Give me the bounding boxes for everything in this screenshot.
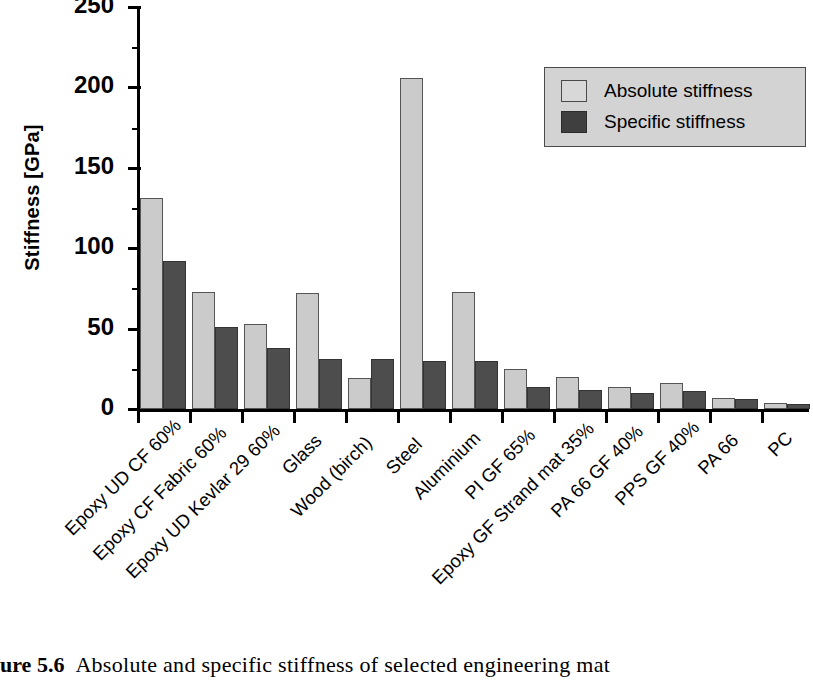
legend-swatch-absolute-icon [561, 80, 587, 102]
bar-specific-5 [423, 361, 446, 409]
bar-specific-1 [215, 327, 238, 409]
bar-specific-8 [579, 390, 602, 409]
bar-specific-9 [631, 393, 654, 409]
bar-absolute-6 [452, 292, 475, 409]
legend-label-specific: Specific stiffness [604, 111, 745, 133]
y-tick-label-50: 50 [87, 313, 114, 341]
bar-absolute-8 [556, 377, 579, 409]
bar-specific-12 [787, 404, 810, 409]
y-tick-minor-75 [132, 288, 139, 290]
y-tick-minor-225 [132, 47, 139, 49]
x-axis-label-5: Steel [381, 434, 426, 479]
bar-specific-11 [735, 399, 758, 409]
bar-specific-6 [475, 361, 498, 409]
bar-specific-10 [683, 391, 706, 409]
bar-specific-2 [267, 348, 290, 409]
x-tick-8 [553, 409, 556, 423]
y-axis-title: Stiffness [GPa] [21, 103, 44, 293]
bar-absolute-3 [296, 293, 319, 409]
caption-text: Absolute and specific stiffness of selec… [75, 652, 610, 677]
y-tick-200: 200 [128, 86, 141, 89]
caption-prefix: ure [0, 652, 31, 677]
y-tick-150: 150 [128, 167, 141, 170]
bar-absolute-0 [140, 198, 163, 409]
x-tick-1 [189, 409, 192, 423]
x-tick-12 [761, 409, 764, 423]
caption-number: 5.6 [37, 652, 65, 677]
x-tick-10 [657, 409, 660, 423]
bar-specific-3 [319, 359, 342, 409]
x-tick-6 [449, 409, 452, 423]
bar-absolute-12 [764, 403, 787, 409]
y-tick-label-250: 250 [74, 0, 114, 19]
bar-absolute-7 [504, 369, 527, 409]
bar-absolute-5 [400, 78, 423, 409]
figure-container: Stiffness [GPa] 050100150200250 Absolute… [0, 0, 813, 689]
legend-label-absolute: Absolute stiffness [604, 80, 753, 102]
y-tick-label-100: 100 [74, 233, 114, 261]
y-tick-minor-125 [132, 208, 139, 210]
x-tick-0 [137, 409, 140, 423]
x-axis-label-3: Glass [277, 430, 326, 479]
x-tick-4 [345, 409, 348, 423]
legend-swatch-specific-icon [561, 111, 587, 133]
x-tick-5 [397, 409, 400, 423]
bar-absolute-1 [192, 292, 215, 409]
x-tick-9 [605, 409, 608, 423]
bar-specific-7 [527, 387, 550, 410]
y-tick-label-150: 150 [74, 152, 114, 180]
bar-absolute-4 [348, 378, 371, 409]
y-tick-minor-175 [132, 128, 139, 130]
x-tick-3 [293, 409, 296, 423]
bar-specific-0 [163, 261, 186, 409]
bar-specific-4 [371, 359, 394, 409]
x-axis-label-12: PC [763, 427, 797, 461]
legend-item-specific-stiffness[interactable]: Specific stiffness [561, 108, 745, 136]
x-axis-label-11: PA 66 [693, 430, 743, 480]
figure-caption: ure 5.6 Absolute and specific stiffness … [0, 652, 813, 678]
legend-item-absolute-stiffness[interactable]: Absolute stiffness [561, 77, 753, 105]
x-tick-7 [501, 409, 504, 423]
bar-absolute-9 [608, 387, 631, 410]
chart-legend: Absolute stiffness Specific stiffness [544, 67, 806, 147]
y-tick-label-200: 200 [74, 72, 114, 100]
y-tick-minor-25 [132, 369, 139, 371]
bar-absolute-2 [244, 324, 267, 409]
y-tick-label-0: 0 [101, 393, 114, 421]
x-tick-11 [709, 409, 712, 423]
bar-absolute-10 [660, 383, 683, 409]
x-tick-2 [241, 409, 244, 423]
y-tick-250: 250 [128, 6, 141, 9]
bar-absolute-11 [712, 398, 735, 409]
